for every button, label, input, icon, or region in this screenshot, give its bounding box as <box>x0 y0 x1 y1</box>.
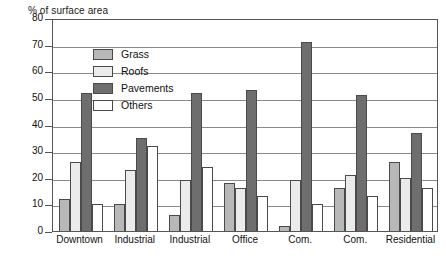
y-axis-tick-mark <box>45 99 52 100</box>
legend-label: Grass <box>121 48 149 60</box>
bar-pavements <box>411 133 422 232</box>
y-axis-tick-label: 40 <box>32 119 43 130</box>
bar-others <box>312 204 323 231</box>
bar-others <box>92 204 103 231</box>
bar-chart: % of surface area 01020304050607080 Gras… <box>0 0 446 267</box>
y-axis-tick: 20 <box>0 179 52 180</box>
y-axis-tick-label: 50 <box>32 92 43 103</box>
bar-roofs <box>400 178 411 231</box>
y-axis: 01020304050607080 <box>0 19 52 232</box>
x-axis-label: Industrial <box>162 234 217 245</box>
y-axis-tick: 80 <box>0 19 52 20</box>
bar-pavements <box>81 93 92 231</box>
bar-grass <box>59 199 70 231</box>
y-axis-tick-mark <box>45 179 52 180</box>
x-axis-label: Com. <box>328 234 383 245</box>
y-axis-tick-label: 30 <box>32 145 43 156</box>
legend: GrassRoofsPavementsOthers <box>93 46 213 114</box>
y-axis-tick-mark <box>45 205 52 206</box>
bar-roofs <box>70 162 81 231</box>
legend-label: Roofs <box>121 65 148 77</box>
x-axis-label: Downtown <box>52 234 107 245</box>
bar-grass <box>279 226 290 231</box>
x-axis-label: Com. <box>273 234 328 245</box>
y-axis-tick: 50 <box>0 99 52 100</box>
legend-swatch-others <box>93 100 113 111</box>
x-axis-label: Office <box>217 234 272 245</box>
bar-roofs <box>125 170 136 231</box>
legend-swatch-grass <box>93 49 113 60</box>
bar-pavements <box>136 138 147 231</box>
y-axis-tick: 40 <box>0 126 52 127</box>
plot-area: GrassRoofsPavementsOthers <box>52 19 438 232</box>
bar-group <box>329 20 384 231</box>
bar-grass <box>224 183 235 231</box>
bar-group <box>218 20 273 231</box>
bar-grass <box>114 204 125 231</box>
bar-others <box>367 196 378 231</box>
legend-item: Pavements <box>93 80 213 96</box>
legend-item: Grass <box>93 46 213 62</box>
bar-roofs <box>345 175 356 231</box>
y-axis-tick: 10 <box>0 205 52 206</box>
legend-item: Others <box>93 97 213 113</box>
y-axis-tick-label: 80 <box>32 12 43 23</box>
bar-others <box>257 196 268 231</box>
bar-others <box>422 188 433 231</box>
legend-swatch-roofs <box>93 66 113 77</box>
bar-grass <box>389 162 400 231</box>
legend-label: Pavements <box>121 82 174 94</box>
x-axis-label: Industrial <box>107 234 162 245</box>
legend-swatch-pavements <box>93 83 113 94</box>
y-axis-tick: 70 <box>0 46 52 47</box>
y-axis-tick: 30 <box>0 152 52 153</box>
y-axis-tick-mark <box>45 232 52 233</box>
bar-roofs <box>290 180 301 231</box>
y-axis-tick-mark <box>45 72 52 73</box>
bar-grass <box>169 215 180 231</box>
bar-roofs <box>180 180 191 231</box>
bar-others <box>202 167 213 231</box>
bar-group <box>274 20 329 231</box>
y-axis-tick-mark <box>45 46 52 47</box>
legend-label: Others <box>121 99 153 111</box>
y-axis-tick-label: 0 <box>37 225 43 236</box>
x-axis-label: Residential <box>383 234 438 245</box>
bar-pavements <box>301 42 312 231</box>
y-axis-tick-label: 60 <box>32 65 43 76</box>
legend-item: Roofs <box>93 63 213 79</box>
bar-grass <box>334 188 345 231</box>
y-axis-tick-label: 10 <box>32 198 43 209</box>
bar-group <box>384 20 439 231</box>
bar-pavements <box>356 95 367 231</box>
bar-pavements <box>246 90 257 231</box>
y-axis-tick-mark <box>45 126 52 127</box>
bar-roofs <box>235 188 246 231</box>
y-axis-tick-label: 20 <box>32 172 43 183</box>
y-axis-tick-mark <box>45 19 52 20</box>
y-axis-tick: 0 <box>0 232 52 233</box>
y-axis-tick-label: 70 <box>32 39 43 50</box>
bar-others <box>147 146 158 231</box>
x-axis-labels: DowntownIndustrialIndustrialOfficeCom.Co… <box>52 234 438 254</box>
y-axis-tick: 60 <box>0 72 52 73</box>
y-axis-tick-mark <box>45 152 52 153</box>
